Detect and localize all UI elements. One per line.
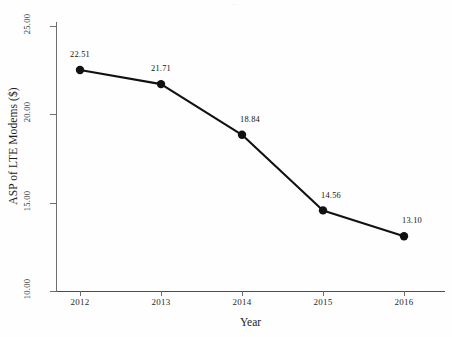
y-axis-title-label: ASP of LTE Modems ($)	[7, 87, 19, 205]
x-axis-line	[56, 291, 445, 292]
data-point-marker[interactable]	[319, 206, 327, 214]
x-tick-mark	[242, 291, 243, 296]
y-tick-mark	[50, 26, 57, 27]
data-point-marker[interactable]	[157, 80, 165, 88]
y-tick-label: 15.00	[4, 196, 50, 210]
x-tick-label: 2013	[137, 297, 185, 307]
x-tick-label: 2015	[299, 297, 347, 307]
y-tick-label: 20.00	[4, 107, 50, 121]
x-tick-mark	[404, 291, 405, 296]
data-point-value-label: 18.84	[223, 115, 277, 124]
cropped-title-remnant: ...	[232, 0, 284, 6]
x-tick-label: 2012	[56, 297, 104, 307]
x-tick-mark	[80, 291, 81, 296]
x-axis-title: Year	[56, 316, 445, 328]
x-tick-mark	[323, 291, 324, 296]
y-tick-label-text: 15.00	[22, 178, 32, 224]
data-point-value-label: 21.71	[134, 64, 188, 73]
y-tick-mark	[50, 203, 57, 204]
y-tick-label: 10.00	[4, 284, 50, 298]
y-axis-title: ASP of LTE Modems ($)	[2, 0, 24, 291]
x-tick-mark	[161, 291, 162, 296]
line-chart-figure: ... ASP of LTE Modems ($) 25.0020.0015.0…	[0, 0, 452, 337]
y-tick-mark	[50, 291, 57, 292]
data-point-value-label: 22.51	[53, 50, 107, 59]
y-tick-label-text: 25.00	[22, 1, 32, 47]
data-point-value-label: 14.56	[304, 191, 358, 200]
series-markers	[76, 66, 408, 241]
x-tick-label: 2016	[380, 297, 428, 307]
data-point-marker[interactable]	[400, 232, 408, 240]
x-tick-label: 2014	[218, 297, 266, 307]
y-axis-line	[56, 22, 57, 292]
y-tick-label: 25.00	[4, 19, 50, 33]
y-tick-mark	[50, 114, 57, 115]
series-polyline	[80, 70, 404, 236]
data-point-marker[interactable]	[238, 131, 246, 139]
y-tick-label-text: 10.00	[22, 266, 32, 312]
data-point-marker[interactable]	[76, 66, 84, 74]
data-point-value-label: 13.10	[385, 216, 439, 225]
y-tick-label-text: 20.00	[22, 89, 32, 135]
